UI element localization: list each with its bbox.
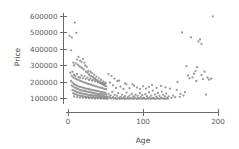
data-point — [86, 66, 88, 68]
data-point — [118, 80, 120, 82]
data-point — [94, 97, 96, 99]
data-point — [187, 74, 189, 76]
data-point — [83, 68, 85, 70]
data-point — [83, 61, 85, 63]
data-point — [75, 32, 77, 34]
data-point — [107, 93, 109, 95]
data-point — [165, 92, 167, 94]
data-point — [83, 75, 85, 77]
data-point — [185, 65, 187, 67]
data-point — [176, 89, 178, 91]
data-point — [91, 72, 93, 74]
data-point — [79, 77, 81, 79]
data-point — [210, 78, 212, 80]
data-point — [206, 77, 208, 79]
data-point — [74, 21, 76, 23]
data-point — [144, 93, 146, 95]
data-point — [97, 97, 99, 99]
data-point — [151, 84, 153, 86]
data-point — [100, 97, 102, 99]
data-point — [197, 40, 199, 42]
data-point — [190, 36, 192, 38]
data-point — [74, 62, 76, 64]
data-point — [125, 91, 127, 93]
data-point — [88, 97, 90, 99]
data-point — [124, 82, 126, 84]
data-point — [110, 94, 112, 96]
y-axis-tick-label: 500000 — [30, 28, 58, 37]
x-axis-tick-label: 100 — [136, 117, 150, 126]
data-point — [107, 73, 109, 75]
data-point — [196, 66, 198, 68]
data-point — [71, 36, 73, 38]
data-point — [181, 31, 183, 33]
data-point — [72, 61, 74, 63]
y-axis-tick-label: 100000 — [30, 94, 58, 103]
data-points-layer — [68, 15, 214, 100]
data-point — [121, 93, 123, 95]
y-axis-tick-label: 200000 — [30, 78, 58, 87]
scatter-chart: 1000002000003000004000005000006000000100… — [0, 0, 239, 149]
data-point — [194, 70, 196, 72]
data-point — [105, 94, 107, 96]
data-point — [71, 71, 73, 73]
data-point — [145, 87, 147, 89]
data-point — [205, 93, 207, 95]
data-point — [157, 92, 159, 94]
data-point — [109, 82, 111, 84]
data-point — [155, 87, 157, 89]
data-point — [202, 78, 204, 80]
data-point — [199, 38, 201, 40]
axes-layer — [60, 13, 219, 116]
data-point — [139, 88, 141, 90]
data-point — [128, 87, 130, 89]
data-point — [82, 58, 84, 60]
data-point — [105, 85, 107, 87]
data-point — [212, 15, 214, 17]
data-point — [195, 80, 197, 82]
data-point — [193, 73, 195, 75]
data-point — [150, 94, 152, 96]
data-point — [105, 88, 107, 90]
plot-area: 1000002000003000004000005000006000000100… — [0, 0, 239, 149]
data-point — [106, 98, 108, 100]
data-point — [70, 49, 72, 51]
data-point — [112, 84, 114, 86]
y-axis-tick-label: 600000 — [30, 12, 58, 21]
data-point — [104, 83, 106, 85]
data-point — [86, 77, 88, 79]
data-point — [167, 95, 169, 97]
data-point — [172, 94, 174, 96]
data-point — [119, 85, 121, 87]
axis-labels-layer: 1000002000003000004000005000006000000100… — [30, 12, 225, 126]
data-point — [87, 70, 89, 72]
data-point — [95, 79, 97, 81]
data-point — [117, 92, 119, 94]
data-point — [82, 77, 84, 79]
data-point — [131, 83, 133, 85]
data-point — [89, 78, 91, 80]
data-point — [77, 56, 79, 58]
data-point — [69, 72, 71, 74]
data-point — [91, 97, 93, 99]
data-point — [113, 78, 115, 80]
data-point — [85, 97, 87, 99]
y-axis-tick-label: 300000 — [30, 61, 58, 70]
y-axis-title: Price — [13, 47, 22, 66]
data-point — [142, 85, 144, 87]
data-point — [160, 85, 162, 87]
data-point — [110, 75, 112, 77]
data-point — [93, 74, 95, 76]
data-point — [131, 93, 133, 95]
x-axis-tick-label: 200 — [211, 117, 225, 126]
data-point — [148, 91, 150, 93]
data-point — [161, 90, 163, 92]
data-point — [76, 58, 78, 60]
data-point — [137, 95, 139, 97]
data-point — [68, 35, 70, 37]
x-axis-tick-label: 0 — [66, 117, 71, 126]
data-point — [82, 97, 84, 99]
data-point — [103, 98, 105, 100]
data-point — [74, 75, 76, 77]
data-point — [73, 95, 75, 97]
